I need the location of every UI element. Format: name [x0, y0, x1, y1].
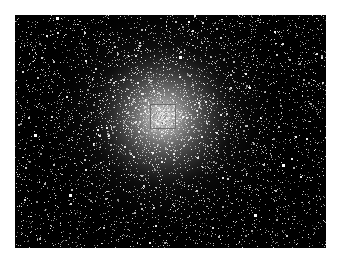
star-cluster-image: [15, 15, 326, 248]
region-of-interest-box: [150, 104, 176, 129]
star-field: [15, 15, 326, 248]
